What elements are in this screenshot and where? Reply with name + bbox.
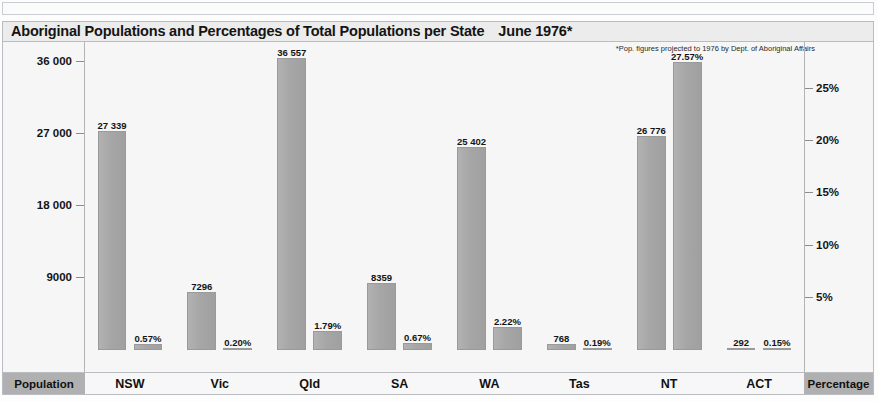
bar-value-percentage-tas: 0.19%	[584, 337, 611, 348]
bar-value-percentage-act: 0.15%	[764, 337, 791, 348]
bar-percentage-nsw: 0.57%	[134, 344, 163, 350]
top-strip	[2, 2, 874, 15]
bar-group-act: 2920.15%	[714, 42, 804, 350]
chart-panel: Aboriginal Populations and Percentages o…	[2, 21, 874, 395]
bar-value-percentage-vic: 0.20%	[224, 337, 251, 348]
left-axis-tick-3: 9000	[46, 271, 72, 283]
right-axis-tick-4: 5%	[816, 291, 833, 303]
bar-percentage-vic: 0.20%	[223, 348, 252, 350]
bar-value-population-vic: 7296	[191, 281, 212, 292]
right-axis-tick-2: 15%	[816, 186, 839, 198]
right-axis-tick-3: 10%	[816, 239, 839, 251]
left-axis-tick-2: 18 000	[37, 199, 72, 211]
category-label-vic: Vic	[175, 373, 265, 394]
chart-date-label: June 1976*	[498, 23, 572, 39]
category-label-act: ACT	[714, 373, 804, 394]
category-axis-row: Population Percentage NSWVicQldSAWATasNT…	[3, 372, 873, 394]
bar-group-vic: 72960.20%	[175, 42, 265, 350]
chart-title-bar: Aboriginal Populations and Percentages o…	[3, 22, 873, 42]
category-label-qld: Qld	[265, 373, 355, 394]
bar-value-population-act: 292	[733, 337, 749, 348]
bars-container: 27 3390.57%72960.20%36 5571.79%83590.67%…	[85, 42, 804, 372]
bar-group-nt: 26 77627.57%	[624, 42, 714, 350]
bar-value-population-qld: 36 557	[277, 47, 306, 58]
plot-area: *Pop. figures projected to 1976 by Dept.…	[3, 42, 873, 372]
category-label-wa: WA	[445, 373, 535, 394]
bar-value-population-sa: 8359	[371, 272, 392, 283]
category-label-sa: SA	[355, 373, 445, 394]
bar-group-sa: 83590.67%	[355, 42, 445, 350]
bar-value-percentage-qld: 1.79%	[314, 320, 341, 331]
bar-value-population-wa: 25 402	[457, 136, 486, 147]
bar-value-population-nsw: 27 339	[97, 120, 126, 131]
bar-group-nsw: 27 3390.57%	[85, 42, 175, 350]
bar-group-wa: 25 4022.22%	[445, 42, 535, 350]
right-axis-tick-1: 20%	[816, 134, 839, 146]
category-label-nsw: NSW	[85, 373, 175, 394]
bar-percentage-qld: 1.79%	[313, 331, 342, 350]
chart-title-text: Aboriginal Populations and Percentages o…	[11, 23, 484, 39]
bar-percentage-tas: 0.19%	[583, 348, 612, 350]
left-axis-label: Population	[3, 373, 85, 394]
left-axis-tick-0: 36 000	[37, 55, 72, 67]
bar-percentage-sa: 0.67%	[403, 343, 432, 350]
category-label-nt: NT	[624, 373, 714, 394]
bar-value-population-tas: 768	[553, 333, 569, 344]
chart-page: Aboriginal Populations and Percentages o…	[0, 0, 878, 401]
bar-population-tas: 768	[547, 344, 576, 350]
bar-population-act: 292	[727, 348, 756, 350]
category-label-tas: Tas	[534, 373, 624, 394]
bar-percentage-wa: 2.22%	[493, 327, 522, 350]
bar-population-wa: 25 402	[457, 147, 486, 350]
page-title: Aboriginal Populations and Percentages o…	[11, 23, 572, 39]
right-axis-line	[804, 42, 805, 372]
bar-group-qld: 36 5571.79%	[265, 42, 355, 350]
bar-value-percentage-wa: 2.22%	[494, 316, 521, 327]
bar-value-percentage-nsw: 0.57%	[134, 333, 161, 344]
bar-population-qld: 36 557	[277, 58, 306, 350]
left-axis-tick-1: 27 000	[37, 127, 72, 139]
bar-value-population-nt: 26 776	[637, 125, 666, 136]
right-axis-tick-0: 25%	[816, 82, 839, 94]
bar-population-sa: 8359	[367, 283, 396, 350]
right-axis-label: Percentage	[804, 373, 873, 394]
bar-population-nsw: 27 339	[98, 131, 127, 350]
bar-percentage-act: 0.15%	[763, 348, 792, 350]
bar-value-percentage-nt: 27.57%	[671, 51, 703, 62]
bar-percentage-nt: 27.57%	[673, 62, 702, 350]
bar-population-vic: 7296	[187, 292, 216, 350]
bar-value-percentage-sa: 0.67%	[404, 332, 431, 343]
bar-population-nt: 26 776	[637, 136, 666, 350]
bar-group-tas: 7680.19%	[534, 42, 624, 350]
